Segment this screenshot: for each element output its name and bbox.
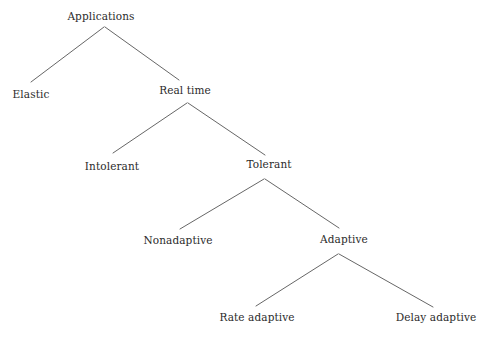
- tree-node-elastic: Elastic: [13, 88, 50, 100]
- classification-tree-diagram: Applications Elastic Real time Intoleran…: [0, 0, 486, 341]
- tree-node-adaptive: Adaptive: [320, 233, 368, 245]
- tree-node-delay-adaptive: Delay adaptive: [396, 311, 477, 323]
- tree-node-tolerant: Tolerant: [246, 158, 291, 170]
- tree-edge-applications-to-real-time: [105, 27, 179, 80]
- tree-edge-adaptive-to-rate-adaptive: [256, 254, 338, 306]
- tree-node-intolerant: Intolerant: [85, 160, 139, 172]
- tree-edge-real-time-to-tolerant: [188, 103, 265, 155]
- tree-edge-tolerant-to-nonadaptive: [180, 179, 264, 229]
- tree-node-real-time: Real time: [159, 84, 211, 96]
- tree-edge-real-time-to-intolerant: [113, 103, 187, 153]
- tree-edge-applications-to-elastic: [31, 27, 104, 82]
- tree-edge-tolerant-to-adaptive: [265, 179, 339, 228]
- tree-node-nonadaptive: Nonadaptive: [143, 234, 212, 246]
- tree-node-applications: Applications: [67, 10, 134, 22]
- tree-edges-layer: [0, 0, 486, 341]
- tree-edge-adaptive-to-delay-adaptive: [339, 254, 433, 307]
- tree-node-rate-adaptive: Rate adaptive: [219, 311, 294, 323]
